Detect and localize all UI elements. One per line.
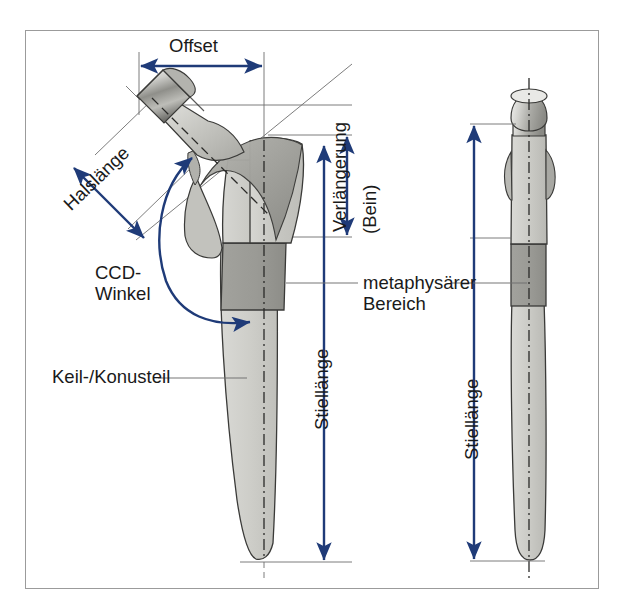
metaphysaerer-line-1: metaphysärer (363, 272, 476, 293)
left-implant (137, 68, 304, 560)
diagram-graphics (0, 0, 617, 611)
verlaengerung-label: Verlängerung (330, 122, 349, 232)
figure-canvas: Offset Halslänge CCD- Winkel Keil-/Konus… (0, 0, 617, 611)
stiellaenge-right-label: Stiellänge (462, 379, 481, 460)
stiellaenge-left-label: Stiellänge (312, 349, 331, 430)
ccd-winkel-line-2: Winkel (95, 283, 151, 304)
keil-konusteil-label: Keil-/Konusteil (52, 367, 170, 386)
ccd-winkel-label: CCD- Winkel (95, 262, 151, 305)
metaphysaerer-bereich-label: metaphysärer Bereich (363, 272, 476, 315)
right-implant (505, 78, 556, 578)
metaphysaerer-line-2: Bereich (363, 293, 476, 314)
ccd-winkel-line-1: CCD- (95, 262, 151, 283)
bein-label: (Bein) (360, 185, 379, 234)
offset-label: Offset (169, 36, 218, 55)
